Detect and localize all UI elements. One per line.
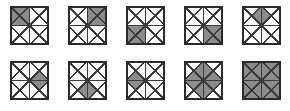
tile-9	[184, 61, 223, 100]
tile-10	[242, 61, 281, 100]
tile-slot-1	[10, 6, 58, 50]
tile-7	[68, 61, 107, 100]
tile-slot-8	[126, 61, 174, 105]
tile-8	[126, 61, 165, 100]
tile-row-bottom	[0, 61, 290, 107]
tile-slot-5	[242, 6, 290, 50]
tile-slot-6	[10, 61, 58, 105]
tile-4	[184, 6, 223, 45]
tile-slot-2	[68, 6, 116, 50]
tile-slot-4	[184, 6, 232, 50]
tile-row-top	[0, 6, 290, 52]
tile-slot-10	[242, 61, 290, 105]
tile-pattern-figure	[0, 0, 290, 111]
tile-2	[68, 6, 107, 45]
tile-5	[242, 6, 281, 45]
tile-slot-3	[126, 6, 174, 50]
tile-1	[10, 6, 49, 45]
tile-slot-9	[184, 61, 232, 105]
tile-slot-7	[68, 61, 116, 105]
tile-6	[10, 61, 49, 100]
tile-3	[126, 6, 165, 45]
